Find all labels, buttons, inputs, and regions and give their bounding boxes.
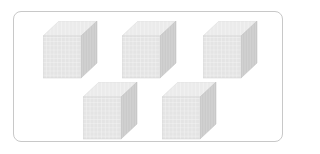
thousand-cube-icon <box>122 21 178 79</box>
thousand-cube-icon <box>162 82 218 140</box>
thousand-cube-icon <box>203 21 259 79</box>
thousand-cube-icon <box>83 82 139 140</box>
thousand-cube-icon <box>43 21 99 79</box>
